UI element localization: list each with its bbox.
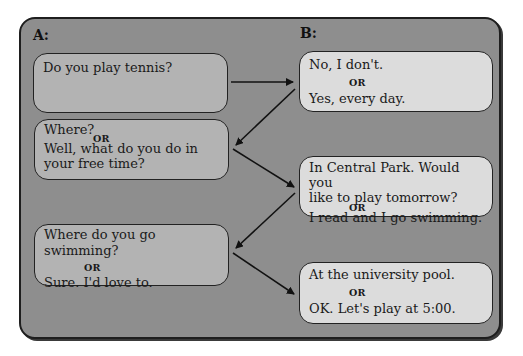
arrow-a2-to-b2	[233, 149, 294, 187]
arrow-b1-to-a2	[236, 89, 295, 145]
arrow-a3-to-b3	[233, 253, 294, 294]
arrow-b2-to-a3	[236, 193, 295, 248]
flow-arrows	[0, 0, 523, 356]
